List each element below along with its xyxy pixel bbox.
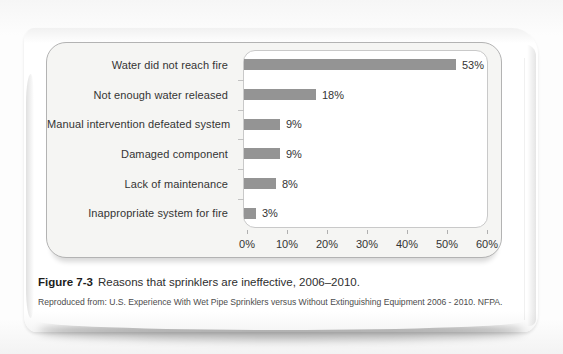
bar-value-label: 3% bbox=[262, 207, 278, 219]
bar-chart: Water did not reach fire 53% Not enough … bbox=[47, 50, 489, 228]
figure-source: Reproduced from: U.S. Experience With We… bbox=[38, 297, 502, 308]
figure-caption-text: Reasons that sprinklers are ineffective,… bbox=[98, 276, 360, 288]
category-label: Water did not reach fire bbox=[47, 59, 243, 71]
x-axis-tick-label: 60% bbox=[470, 238, 504, 250]
bar-cell: 18% bbox=[243, 80, 489, 110]
figure-box: Water did not reach fire 53% Not enough … bbox=[46, 42, 502, 258]
chart-row: Manual intervention defeated system 9% bbox=[47, 109, 489, 139]
bar bbox=[244, 59, 456, 70]
bar bbox=[244, 119, 280, 130]
bar-value-label: 8% bbox=[282, 178, 298, 190]
category-label: Not enough water released bbox=[47, 89, 243, 101]
bar-value-label: 9% bbox=[286, 148, 302, 160]
bar bbox=[244, 208, 256, 219]
bar-cell: 9% bbox=[243, 109, 489, 139]
scanned-page-background: Water did not reach fire 53% Not enough … bbox=[0, 0, 563, 354]
figure-caption-label: Figure 7-3 bbox=[38, 276, 93, 288]
chart-row: Damaged component 9% bbox=[47, 139, 489, 169]
bar-cell: 3% bbox=[243, 198, 489, 228]
x-axis-tick-label: 10% bbox=[270, 238, 304, 250]
bar-cell: 53% bbox=[243, 50, 489, 80]
figure-caption: Figure 7-3Reasons that sprinklers are in… bbox=[38, 275, 360, 289]
bar bbox=[244, 148, 280, 159]
bar-cell: 8% bbox=[243, 169, 489, 199]
x-axis-tick-label: 40% bbox=[390, 238, 424, 250]
bar-value-label: 18% bbox=[322, 89, 344, 101]
chart-row: Water did not reach fire 53% bbox=[47, 50, 489, 80]
chart-row: Not enough water released 18% bbox=[47, 80, 489, 110]
bar-cell: 9% bbox=[243, 139, 489, 169]
x-axis-tick-label: 50% bbox=[430, 238, 464, 250]
chart-row: Inappropriate system for fire 3% bbox=[47, 198, 489, 228]
bar bbox=[244, 89, 316, 100]
category-label: Inappropriate system for fire bbox=[47, 207, 243, 219]
bar-value-label: 53% bbox=[462, 59, 484, 71]
page-right-fold-line bbox=[524, 58, 525, 320]
x-axis-tick-label: 0% bbox=[230, 238, 264, 250]
category-label: Lack of maintenance bbox=[47, 178, 243, 190]
chart-row: Lack of maintenance 8% bbox=[47, 169, 489, 199]
bar bbox=[244, 178, 276, 189]
book-page: Water did not reach fire 53% Not enough … bbox=[24, 28, 538, 332]
x-axis: 0% 10% 20% 30% 40% 50% 60% bbox=[230, 238, 504, 250]
category-label: Damaged component bbox=[47, 148, 243, 160]
category-label: Manual intervention defeated system bbox=[47, 118, 243, 130]
bar-value-label: 9% bbox=[286, 118, 302, 130]
page-right-fold bbox=[524, 44, 536, 326]
x-axis-tick-label: 30% bbox=[350, 238, 384, 250]
x-axis-tick-label: 20% bbox=[310, 238, 344, 250]
